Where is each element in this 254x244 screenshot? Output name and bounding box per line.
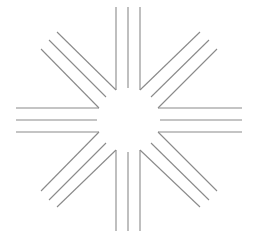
background bbox=[0, 0, 254, 244]
starburst-svg bbox=[0, 0, 254, 244]
starburst-diagram bbox=[0, 0, 254, 244]
